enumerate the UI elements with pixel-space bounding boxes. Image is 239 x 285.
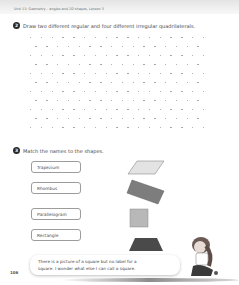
- grid-dot: [187, 82, 188, 83]
- grid-dot: [52, 37, 53, 38]
- grid-dot: [84, 55, 85, 56]
- grid-dot: [100, 118, 101, 119]
- name-label: Rectangle: [37, 233, 58, 238]
- grid-dot: [62, 73, 63, 74]
- workbook-page: Unit 11: Geometry – angles and 2D shapes…: [0, 0, 239, 285]
- grid-dot: [95, 55, 96, 56]
- name-box-parallelogram[interactable]: Parallelogram: [31, 208, 81, 220]
- square-shape[interactable]: [130, 209, 148, 227]
- grid-dot: [95, 91, 96, 92]
- grid-dot: [41, 127, 42, 128]
- name-label: Parallelogram: [37, 212, 67, 217]
- grid-dot: [116, 37, 117, 38]
- grid-dot: [165, 46, 166, 47]
- grid-dot: [73, 127, 74, 128]
- grid-dot: [57, 64, 58, 65]
- grid-dot: [149, 37, 150, 38]
- grid-dot: [165, 64, 166, 65]
- grid-dot: [46, 100, 47, 101]
- grid-dot: [170, 127, 171, 128]
- rotated-rectangle-shape[interactable]: [127, 180, 164, 204]
- grid-dot: [133, 64, 134, 65]
- grid-dot: [149, 73, 150, 74]
- grid-dot: [143, 118, 144, 119]
- grid-dot: [30, 109, 31, 110]
- trapezium-shape[interactable]: [129, 238, 163, 251]
- grid-dot: [89, 118, 90, 119]
- grid-dot: [68, 118, 69, 119]
- grid-dot: [203, 127, 204, 128]
- grid-dot: [46, 82, 47, 83]
- grid-dot: [68, 82, 69, 83]
- grid-dot: [154, 46, 155, 47]
- grid-dot: [35, 82, 36, 83]
- grid-dot: [52, 91, 53, 92]
- grid-dot: [62, 55, 63, 56]
- name-box-rhombus[interactable]: Rhombus: [31, 182, 81, 194]
- grid-dot: [100, 100, 101, 101]
- grid-dot: [68, 64, 69, 65]
- grid-dot: [89, 64, 90, 65]
- isometric-dot-grid[interactable]: [28, 35, 218, 135]
- grid-dot: [133, 46, 134, 47]
- grid-dot: [170, 109, 171, 110]
- grid-dot: [160, 127, 161, 128]
- header-band: Unit 11: Geometry – angles and 2D shapes…: [0, 0, 239, 14]
- grid-dot: [160, 37, 161, 38]
- question-2-instruction: Draw two different regular and four diff…: [23, 23, 195, 29]
- grid-dot: [52, 109, 53, 110]
- grid-dot: [111, 46, 112, 47]
- grid-dot: [122, 82, 123, 83]
- grid-dot: [149, 91, 150, 92]
- grid-dot: [57, 118, 58, 119]
- grid-dot: [197, 100, 198, 101]
- girl-character-illustration: [187, 236, 221, 278]
- parallelogram-shape[interactable]: [128, 161, 164, 174]
- speech-line-2: square. I wonder what else I can call a …: [38, 266, 135, 271]
- grid-dot: [127, 73, 128, 74]
- grid-dot: [187, 100, 188, 101]
- grid-dot: [154, 118, 155, 119]
- grid-dot: [181, 109, 182, 110]
- grid-dot: [127, 91, 128, 92]
- grid-dot: [46, 64, 47, 65]
- grid-dot: [170, 91, 171, 92]
- grid-dot: [122, 118, 123, 119]
- grid-dot: [106, 91, 107, 92]
- unit-header: Unit 11: Geometry – angles and 2D shapes…: [14, 7, 104, 11]
- grid-dot: [106, 55, 107, 56]
- grid-dot: [170, 73, 171, 74]
- grid-dot: [73, 37, 74, 38]
- grid-dot: [197, 82, 198, 83]
- grid-dot: [111, 118, 112, 119]
- grid-dot: [143, 46, 144, 47]
- grid-dot: [62, 127, 63, 128]
- grid-dot: [116, 91, 117, 92]
- grid-dot: [181, 55, 182, 56]
- grid-dot: [52, 127, 53, 128]
- grid-dot: [154, 100, 155, 101]
- grid-dot: [203, 91, 204, 92]
- grid-dot: [138, 109, 139, 110]
- grid-dot: [35, 118, 36, 119]
- grid-dot: [46, 118, 47, 119]
- name-box-rectangle[interactable]: Rectangle: [31, 229, 81, 241]
- grid-dot: [165, 118, 166, 119]
- grid-dot: [165, 82, 166, 83]
- grid-dot: [176, 64, 177, 65]
- name-box-trapezium[interactable]: Trapezium: [31, 161, 81, 173]
- grid-dot: [192, 55, 193, 56]
- grid-dot: [111, 64, 112, 65]
- grid-dot: [122, 100, 123, 101]
- grid-dot: [95, 73, 96, 74]
- grid-dot: [149, 109, 150, 110]
- grid-dot: [170, 37, 171, 38]
- grid-dot: [160, 73, 161, 74]
- grid-dot: [106, 127, 107, 128]
- grid-dot: [122, 64, 123, 65]
- grid-dot: [203, 37, 204, 38]
- grid-dot: [41, 55, 42, 56]
- grid-dot: [116, 109, 117, 110]
- grid-dot: [95, 109, 96, 110]
- grid-dot: [203, 73, 204, 74]
